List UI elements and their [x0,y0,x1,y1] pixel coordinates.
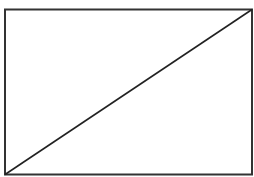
diagram-canvas [0,0,254,177]
